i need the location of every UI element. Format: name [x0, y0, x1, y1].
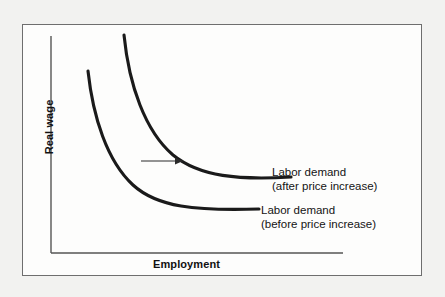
curve-label-after-line1: Labor demand	[272, 166, 377, 180]
curve-label-before-line2: (before price increase)	[261, 218, 376, 232]
curve-label-after-line2: (after price increase)	[272, 180, 377, 194]
labor-demand-before-curve	[88, 71, 259, 209]
curve-label-before-line1: Labor demand	[261, 204, 376, 218]
curve-label-labor-demand-before: Labor demand (before price increase)	[261, 204, 376, 231]
plot-area	[23, 25, 421, 275]
x-axis-title: Employment	[153, 258, 220, 270]
shift-arrow-icon	[141, 158, 183, 165]
figure-container: Real wage Employment Labor demand (after…	[0, 0, 445, 297]
diagram-panel: Real wage Employment Labor demand (after…	[22, 24, 422, 276]
curve-label-labor-demand-after: Labor demand (after price increase)	[272, 166, 377, 193]
labor-demand-after-curve	[124, 35, 291, 178]
y-axis-title: Real wage	[43, 87, 55, 167]
